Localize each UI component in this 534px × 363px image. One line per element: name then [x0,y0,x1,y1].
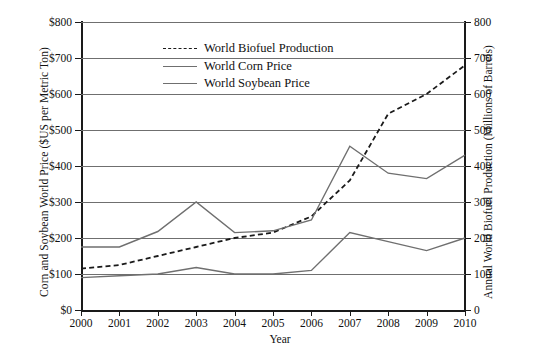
x-axis-tick-label: 2007 [338,317,361,329]
y-axis-right-tick [465,202,471,203]
y-axis-right-tick-label: 200 [474,232,491,244]
y-axis-right-tick-label: 500 [474,124,491,136]
legend-swatch-dashed-line-icon [163,48,197,49]
x-axis-tick [427,310,428,316]
legend-label: World Soybean Price [204,75,310,93]
y-axis-left-tick-label: $500 [49,124,72,136]
x-axis-tick [273,310,274,316]
x-axis-tick-label: 2003 [185,317,208,329]
x-axis-tick [311,310,312,316]
y-axis-left-tick-label: $0 [61,304,73,316]
y-axis-right-tick [465,238,471,239]
chart-legend: World Biofuel ProductionWorld Corn Price… [163,40,334,93]
y-axis-right-tick [465,130,471,131]
y-axis-right-tick-label: 300 [474,196,491,208]
y-axis-right-tick-label: 0 [474,304,480,316]
y-axis-left-tick-label: $700 [49,52,72,64]
y-axis-left-tick-label: $600 [49,88,72,100]
x-axis-tick [388,310,389,316]
chart-figure: Corn and Soybean World Price ($US per Me… [0,0,534,363]
x-axis-title: Year [0,333,534,345]
y-axis-right-tick-label: 700 [474,52,491,64]
y-axis-left-tick-label: $300 [49,196,72,208]
y-axis-right-tick [465,274,471,275]
y-axis-right-tick-label: 100 [474,268,491,280]
x-axis-tick [196,310,197,316]
x-axis-tick-label: 2000 [70,317,93,329]
y-axis-right-tick [465,94,471,95]
y-axis-left-tick-label: $400 [49,160,72,172]
series-line [81,146,465,247]
x-axis-tick-label: 2006 [300,317,323,329]
y-axis-right-tick-label: 800 [474,16,491,28]
x-axis-tick-label: 2010 [454,317,477,329]
x-axis-tick-label: 2005 [262,317,285,329]
x-axis-tick [350,310,351,316]
x-axis-tick [119,310,120,316]
legend-label: World Corn Price [204,58,292,76]
y-axis-right-tick [465,166,471,167]
x-axis-tick-label: 2001 [108,317,131,329]
y-axis-right-tick-label: 600 [474,88,491,100]
x-axis-tick-label: 2004 [223,317,246,329]
x-axis-title-label: Year [243,333,290,345]
x-axis-tick [235,310,236,316]
y-axis-left-tick-label: $800 [49,16,72,28]
series-line [81,65,465,268]
x-axis-tick-label: 2009 [415,317,438,329]
y-axis-left-tick-label: $100 [49,268,72,280]
legend-swatch-solid-line-icon [163,83,197,84]
legend-swatch-solid-line-icon [163,66,197,67]
x-axis-tick-label: 2002 [146,317,169,329]
legend-item[interactable]: World Corn Price [163,58,334,76]
x-axis-tick [465,310,466,316]
legend-item[interactable]: World Soybean Price [163,75,334,93]
x-axis-tick [81,310,82,316]
x-axis-tick-label: 2008 [377,317,400,329]
legend-label: World Biofuel Production [204,40,334,58]
x-axis-tick [158,310,159,316]
y-axis-right-tick-label: 400 [474,160,491,172]
legend-item[interactable]: World Biofuel Production [163,40,334,58]
y-axis-right-tick [465,58,471,59]
y-axis-left-tick-label: $200 [49,232,72,244]
y-axis-right-tick [465,22,471,23]
